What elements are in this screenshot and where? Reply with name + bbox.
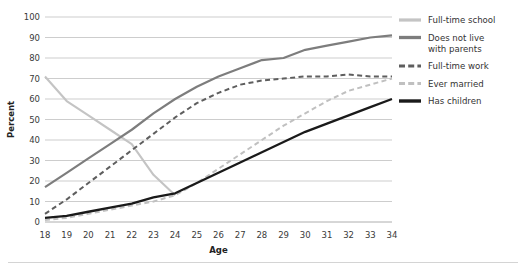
y-axis-title: Percent <box>6 101 16 138</box>
x-tick-label: 18 <box>40 230 51 240</box>
legend-label[interactable]: Ever married <box>428 79 484 89</box>
x-tick-label: 26 <box>213 230 224 240</box>
x-tick-label: 27 <box>235 230 246 240</box>
y-tick-label: 100 <box>24 12 40 22</box>
legend-label[interactable]: Full-time work <box>428 61 489 71</box>
y-tick-label: 50 <box>29 115 40 125</box>
legend: Full-time schoolDoes not livewith parent… <box>399 15 496 106</box>
x-tick-label: 30 <box>300 230 311 240</box>
data-series-group <box>45 35 392 220</box>
x-axis-tick-labels: 1819202122232425262728293031323334 <box>40 230 398 240</box>
chart-container: 0102030405060708090100 18192021222324252… <box>0 0 526 269</box>
series-line-full-time-work <box>45 74 392 213</box>
y-tick-label: 30 <box>29 156 40 166</box>
legend-label[interactable]: Has children <box>428 96 481 106</box>
line-chart: 0102030405060708090100 18192021222324252… <box>0 0 526 269</box>
y-tick-label: 0 <box>35 217 40 227</box>
y-tick-label: 70 <box>29 74 40 84</box>
x-tick-label: 24 <box>170 230 181 240</box>
x-tick-label: 29 <box>278 230 289 240</box>
series-line-full-time-school <box>45 76 175 195</box>
x-tick-label: 19 <box>61 230 72 240</box>
x-tick-label: 34 <box>387 230 398 240</box>
x-tick-label: 25 <box>191 230 202 240</box>
y-tick-label: 20 <box>29 176 40 186</box>
series-line-has-children <box>45 99 392 218</box>
y-tick-label: 40 <box>29 135 40 145</box>
y-tick-label: 10 <box>29 197 40 207</box>
legend-label[interactable]: Full-time school <box>428 15 496 25</box>
x-tick-label: 31 <box>322 230 333 240</box>
x-tick-label: 28 <box>256 230 267 240</box>
y-axis-tick-labels: 0102030405060708090100 <box>24 12 40 227</box>
x-tick-label: 22 <box>126 230 137 240</box>
x-tick-label: 32 <box>343 230 354 240</box>
y-tick-label: 60 <box>29 94 40 104</box>
x-axis-title: Age <box>209 245 228 255</box>
x-tick-label: 21 <box>105 230 116 240</box>
y-tick-label: 90 <box>29 33 40 43</box>
x-tick-label: 23 <box>148 230 159 240</box>
x-tick-label: 33 <box>365 230 376 240</box>
legend-label[interactable]: Does not livewith parents <box>428 33 484 54</box>
x-tick-label: 20 <box>83 230 94 240</box>
y-tick-label: 80 <box>29 53 40 63</box>
series-line-ever-married <box>45 79 392 220</box>
